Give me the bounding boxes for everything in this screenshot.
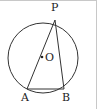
geometry-diagram: P O A B: [0, 0, 99, 109]
circle: [8, 23, 78, 93]
label-B: B: [62, 91, 70, 104]
diagram-frame: P O A B: [0, 0, 99, 109]
label-P: P: [51, 1, 59, 14]
segment-PB: [55, 20, 64, 89]
label-A: A: [20, 91, 30, 104]
label-O: O: [45, 51, 54, 64]
center-point: [41, 56, 44, 59]
